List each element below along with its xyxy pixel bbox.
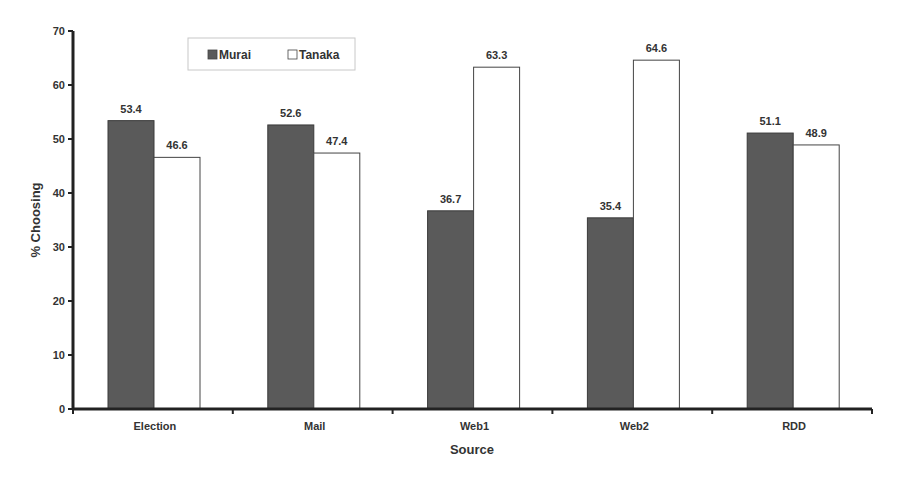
bar-murai-election — [108, 121, 154, 409]
y-tick-label: 50 — [53, 133, 65, 145]
data-label: 35.4 — [600, 200, 622, 212]
data-label: 63.3 — [486, 49, 507, 61]
x-tick-label: Election — [134, 420, 177, 432]
y-axis-title: % Choosing — [28, 182, 43, 257]
legend-swatch-tanaka — [288, 50, 297, 59]
data-label: 48.9 — [805, 127, 826, 139]
bar-tanaka-web1 — [474, 67, 520, 409]
bar-tanaka-rdd — [793, 145, 839, 409]
legend-label-tanaka: Tanaka — [299, 48, 340, 62]
data-label: 36.7 — [440, 193, 461, 205]
y-tick-label: 40 — [53, 187, 65, 199]
legend: Murai Tanaka — [188, 38, 355, 70]
data-label: 47.4 — [326, 135, 348, 147]
y-tick-label: 70 — [53, 25, 65, 37]
data-label: 52.6 — [280, 107, 301, 119]
x-tick-label: Web2 — [620, 420, 649, 432]
y-axis: 010203040506070 — [53, 25, 73, 415]
bar-murai-rdd — [747, 133, 793, 409]
bars-layer: 53.446.652.647.436.763.335.464.651.148.9 — [108, 42, 839, 409]
legend-swatch-murai — [208, 50, 217, 59]
x-tick-label: Web1 — [460, 420, 489, 432]
y-tick-label: 0 — [59, 403, 65, 415]
y-tick-label: 30 — [53, 241, 65, 253]
bar-tanaka-web2 — [633, 60, 679, 409]
bar-tanaka-election — [154, 157, 200, 409]
bar-murai-web2 — [587, 218, 633, 409]
x-axis: ElectionMailWeb1Web2RDD — [73, 409, 872, 432]
data-label: 53.4 — [120, 103, 142, 115]
bar-murai-mail — [268, 125, 314, 409]
y-tick-label: 60 — [53, 79, 65, 91]
bar-tanaka-mail — [314, 153, 360, 409]
bar-chart: 53.446.652.647.436.763.335.464.651.148.9… — [0, 0, 904, 477]
x-tick-label: Mail — [304, 420, 325, 432]
y-tick-label: 20 — [53, 295, 65, 307]
bar-murai-web1 — [428, 211, 474, 409]
x-axis-title: Source — [450, 442, 494, 457]
y-tick-label: 10 — [53, 349, 65, 361]
data-label: 64.6 — [646, 42, 667, 54]
legend-label-murai: Murai — [219, 48, 251, 62]
data-label: 51.1 — [759, 115, 780, 127]
data-label: 46.6 — [166, 139, 187, 151]
x-tick-label: RDD — [782, 420, 806, 432]
